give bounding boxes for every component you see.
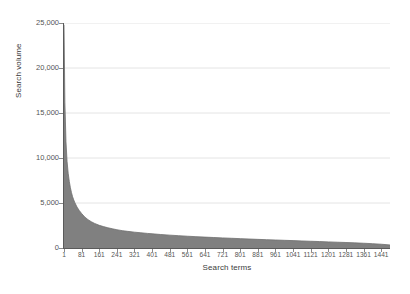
search-volume-long-tail-chart: 05,00010,00015,00020,00025,000 181161241… — [0, 0, 410, 294]
y-axis-title: Search volume — [14, 43, 23, 98]
x-tick-label: 641 — [199, 251, 210, 259]
x-tick-label: 161 — [94, 251, 105, 259]
x-tick-label: 1281 — [339, 251, 354, 259]
y-axis-ticks: 05,00010,00015,00020,00025,000 — [0, 0, 59, 294]
x-tick-label: 481 — [164, 251, 175, 259]
x-tick-label: 1 — [62, 251, 66, 259]
x-tick-label: 1361 — [356, 251, 371, 259]
x-tick-label: 721 — [217, 251, 228, 259]
x-tick-label: 241 — [111, 251, 122, 259]
y-tick-label: 10,000 — [3, 154, 59, 162]
x-tick-label: 81 — [78, 251, 85, 259]
x-tick-label: 801 — [235, 251, 246, 259]
x-tick-label: 1441 — [374, 251, 389, 259]
x-tick-label: 1041 — [286, 251, 301, 259]
plot-area — [64, 23, 390, 248]
x-axis-ticks: 1811612413214014815616417218018819611041… — [64, 249, 390, 263]
x-tick-label: 961 — [270, 251, 281, 259]
y-tick-label: 20,000 — [3, 64, 59, 72]
y-axis-line — [63, 23, 64, 249]
x-tick-label: 401 — [147, 251, 158, 259]
gridlines — [64, 23, 390, 203]
x-tick-label: 1201 — [321, 251, 336, 259]
plot-svg — [64, 23, 390, 248]
x-tick-label: 321 — [129, 251, 140, 259]
x-tick-label: 561 — [182, 251, 193, 259]
series-area-search-volume — [64, 25, 390, 248]
x-tick-label: 1121 — [304, 251, 318, 259]
y-tick-label: 5,000 — [3, 199, 59, 207]
y-tick-label: 25,000 — [3, 19, 59, 27]
x-axis-title: Search terms — [64, 263, 390, 272]
y-tick-label: 0 — [3, 244, 59, 252]
x-tick-label: 881 — [252, 251, 263, 259]
y-tick-label: 15,000 — [3, 109, 59, 117]
series-line-search-volume — [64, 25, 390, 245]
